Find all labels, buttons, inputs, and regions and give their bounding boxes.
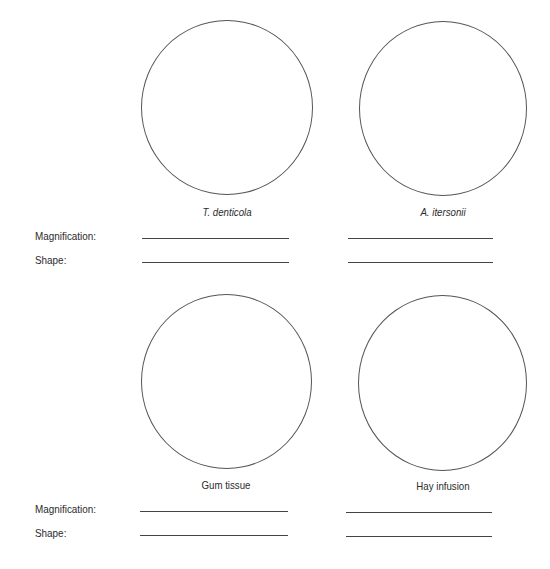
shape-line-2[interactable] bbox=[348, 262, 493, 263]
microscope-field-circle-1 bbox=[141, 20, 313, 195]
shape-label-top: Shape: bbox=[35, 254, 66, 266]
specimen-caption-2: A. itersonii bbox=[364, 206, 522, 218]
specimen-caption-1: T. denticola bbox=[148, 206, 306, 218]
microscope-field-circle-2 bbox=[359, 21, 527, 196]
magnification-line-4[interactable] bbox=[346, 512, 492, 513]
shape-line-1[interactable] bbox=[142, 262, 289, 263]
magnification-label-bottom: Magnification: bbox=[35, 503, 96, 515]
shape-label-bottom: Shape: bbox=[35, 527, 66, 539]
microscope-field-circle-4 bbox=[358, 295, 527, 471]
magnification-line-3[interactable] bbox=[140, 511, 288, 512]
shape-line-4[interactable] bbox=[346, 536, 492, 537]
specimen-caption-3: Gum tissue bbox=[147, 479, 305, 491]
magnification-line-1[interactable] bbox=[142, 238, 289, 239]
microscope-field-circle-3 bbox=[141, 294, 312, 469]
specimen-caption-4: Hay infusion bbox=[364, 480, 522, 492]
magnification-line-2[interactable] bbox=[348, 238, 493, 239]
magnification-label-top: Magnification: bbox=[35, 230, 96, 242]
shape-line-3[interactable] bbox=[140, 535, 288, 536]
